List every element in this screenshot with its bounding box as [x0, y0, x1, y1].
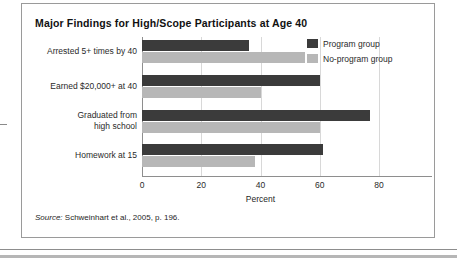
bar[interactable] [142, 110, 370, 121]
x-tick-label-40: 40 [256, 180, 265, 190]
page-bottom-rule [0, 249, 457, 250]
bar[interactable] [142, 144, 323, 155]
x-axis-title: Percent [142, 194, 379, 204]
figure-page: Major Findings for High/Scope Participan… [0, 0, 457, 258]
category-label: Homework at 15 [27, 150, 137, 161]
category-label: Graduated fromhigh school [27, 110, 137, 132]
source-citation: Schweinhart et al., 2005, p. 196. [63, 213, 180, 222]
bar-group [142, 110, 379, 136]
legend-swatch-icon [307, 39, 318, 48]
x-tick-label-0: 0 [140, 180, 145, 190]
figure-container: Major Findings for High/Scope Participan… [21, 3, 435, 238]
x-tick-label-60: 60 [315, 180, 324, 190]
category-label-line: Earned $20,000+ at 40 [27, 81, 137, 92]
bar[interactable] [142, 40, 249, 51]
x-tick-label-20: 20 [197, 180, 206, 190]
bar-group [142, 144, 379, 170]
category-label: Arrested 5+ times by 40 [27, 46, 137, 57]
bar[interactable] [142, 87, 261, 98]
page-edge-mark [0, 124, 7, 125]
legend-swatch-icon [307, 54, 318, 63]
legend-label: No-program group [323, 54, 392, 64]
category-label-line: Graduated from [27, 110, 137, 121]
bar[interactable] [142, 75, 320, 86]
chart-title: Major Findings for High/Scope Participan… [35, 17, 307, 29]
bar[interactable] [142, 122, 320, 133]
legend-item[interactable]: No-program group [307, 52, 392, 65]
legend-label: Program group [323, 39, 380, 49]
source-note: Source: Schweinhart et al., 2005, p. 196… [35, 213, 180, 222]
legend-item[interactable]: Program group [307, 37, 392, 50]
category-label-line: high school [27, 121, 137, 132]
y-axis-category-labels: Arrested 5+ times by 40Earned $20,000+ a… [27, 37, 137, 176]
chart-legend: Program groupNo-program group [307, 37, 392, 67]
bar[interactable] [142, 52, 305, 63]
source-label: Source: [35, 213, 63, 222]
x-axis-line [142, 176, 432, 177]
x-tick-label-80: 80 [374, 180, 383, 190]
bar-group [142, 75, 379, 101]
category-label-line: Homework at 15 [27, 150, 137, 161]
category-label-line: Arrested 5+ times by 40 [27, 46, 137, 57]
bar[interactable] [142, 156, 255, 167]
category-label: Earned $20,000+ at 40 [27, 81, 137, 92]
